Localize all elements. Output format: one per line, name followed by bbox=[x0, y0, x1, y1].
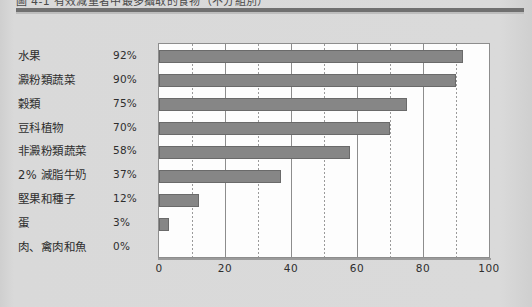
category-label: 非澱粉類蔬菜 bbox=[18, 142, 86, 158]
chart-row: 蛋3% bbox=[0, 210, 158, 234]
value-label: 0% bbox=[113, 240, 153, 252]
bar-chart: 水果92%澱粉類蔬菜90%穀類75%豆科植物70%非澱粉類蔬菜58%2% 減脂牛… bbox=[0, 22, 532, 294]
chart-row: 豆科植物70% bbox=[0, 115, 158, 139]
chart-row: 穀類75% bbox=[0, 91, 158, 115]
bar bbox=[159, 98, 407, 111]
chart-row: 2% 減脂牛奶37% bbox=[0, 162, 158, 186]
chart-row: 非澱粉類蔬菜58% bbox=[0, 139, 158, 163]
value-label: 58% bbox=[113, 144, 153, 156]
x-axis-ticks: 020406080100 bbox=[158, 262, 490, 282]
chart-row: 澱粉類蔬菜90% bbox=[0, 67, 158, 91]
x-tick-label: 20 bbox=[218, 262, 232, 274]
category-label: 2% 減脂牛奶 bbox=[18, 166, 87, 182]
chart-row: 水果92% bbox=[0, 43, 158, 67]
x-tick-label: 100 bbox=[478, 262, 500, 274]
bar bbox=[159, 146, 350, 159]
category-label: 水果 bbox=[18, 47, 41, 63]
document-page: 圖 4-1 有效減重者中最多攝取的食物（不分組別） 水果92%澱粉類蔬菜90%穀… bbox=[0, 0, 532, 307]
value-label: 3% bbox=[113, 216, 153, 228]
value-label: 37% bbox=[113, 168, 153, 180]
clipped-figure-caption: 圖 4-1 有效減重者中最多攝取的食物（不分組別） bbox=[16, 0, 316, 7]
value-label: 90% bbox=[113, 73, 153, 85]
header-rule-shadow bbox=[16, 12, 524, 14]
bar bbox=[159, 170, 281, 183]
chart-row: 堅果和種子12% bbox=[0, 186, 158, 210]
x-axis-line bbox=[158, 258, 491, 260]
bar bbox=[159, 194, 199, 207]
value-label: 70% bbox=[113, 121, 153, 133]
bar bbox=[159, 122, 390, 135]
category-label: 豆科植物 bbox=[18, 119, 64, 135]
value-label: 75% bbox=[113, 97, 153, 109]
category-label: 肉、禽肉和魚 bbox=[18, 238, 86, 254]
x-tick-label: 0 bbox=[155, 262, 162, 274]
plot-area bbox=[158, 43, 490, 258]
x-tick-label: 80 bbox=[416, 262, 430, 274]
category-label-column: 水果92%澱粉類蔬菜90%穀類75%豆科植物70%非澱粉類蔬菜58%2% 減脂牛… bbox=[0, 22, 158, 262]
category-label: 堅果和種子 bbox=[18, 190, 75, 206]
x-tick-label: 60 bbox=[350, 262, 364, 274]
value-label: 12% bbox=[113, 192, 153, 204]
x-tick-label: 40 bbox=[284, 262, 298, 274]
bar bbox=[159, 218, 169, 231]
value-label: 92% bbox=[113, 49, 153, 61]
category-label: 穀類 bbox=[18, 95, 41, 111]
bar bbox=[159, 50, 463, 63]
category-label: 澱粉類蔬菜 bbox=[18, 71, 75, 87]
gridline-minor bbox=[456, 44, 457, 257]
bar bbox=[159, 74, 456, 87]
caption-text: 圖 4-1 有效減重者中最多攝取的食物（不分組別） bbox=[16, 0, 316, 7]
category-label: 蛋 bbox=[18, 214, 29, 230]
chart-row: 肉、禽肉和魚0% bbox=[0, 234, 158, 258]
